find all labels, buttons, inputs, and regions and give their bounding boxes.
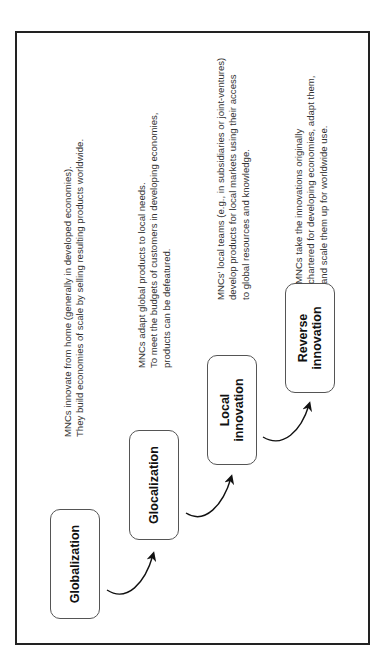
diagram-canvas: Globalization Glocalization Local innova…	[15, 31, 368, 643]
arrow-globalization-to-glocalization	[107, 555, 153, 594]
arrow-glocalization-to-local-innovation	[186, 478, 231, 517]
arrows-layer	[15, 31, 368, 643]
arrow-local-innovation-to-reverse-innovation	[263, 405, 309, 441]
